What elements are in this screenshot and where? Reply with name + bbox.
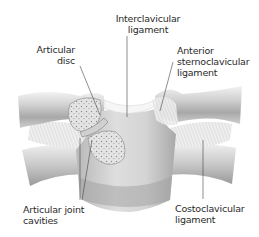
label-articular-joint-cavities: Articular joint cavities	[23, 204, 84, 226]
label-line: ligament	[175, 214, 245, 225]
label-anterior-sternoclavicular-ligament: Anterior sternoclavicular ligament	[177, 45, 249, 78]
label-line: Articular joint	[23, 204, 84, 215]
label-line: Anterior	[177, 45, 249, 56]
label-line: cavities	[23, 215, 84, 226]
label-line: Interclavicular	[112, 13, 184, 24]
label-articular-disc: Articular disc	[27, 44, 75, 66]
label-line: Articular	[27, 44, 75, 55]
label-line: ligament	[177, 67, 249, 78]
label-costoclavicular-ligament: Costoclavicular ligament	[175, 203, 245, 225]
sternoclavicular-diagram	[0, 0, 259, 237]
label-line: Costoclavicular	[175, 203, 245, 214]
costoclavicular-ligament-right	[170, 122, 232, 148]
label-interclavicular-ligament: Interclavicular ligament	[112, 13, 184, 35]
label-line: disc	[27, 55, 75, 66]
label-line: sternoclavicular	[177, 56, 249, 67]
label-line: ligament	[112, 24, 184, 35]
